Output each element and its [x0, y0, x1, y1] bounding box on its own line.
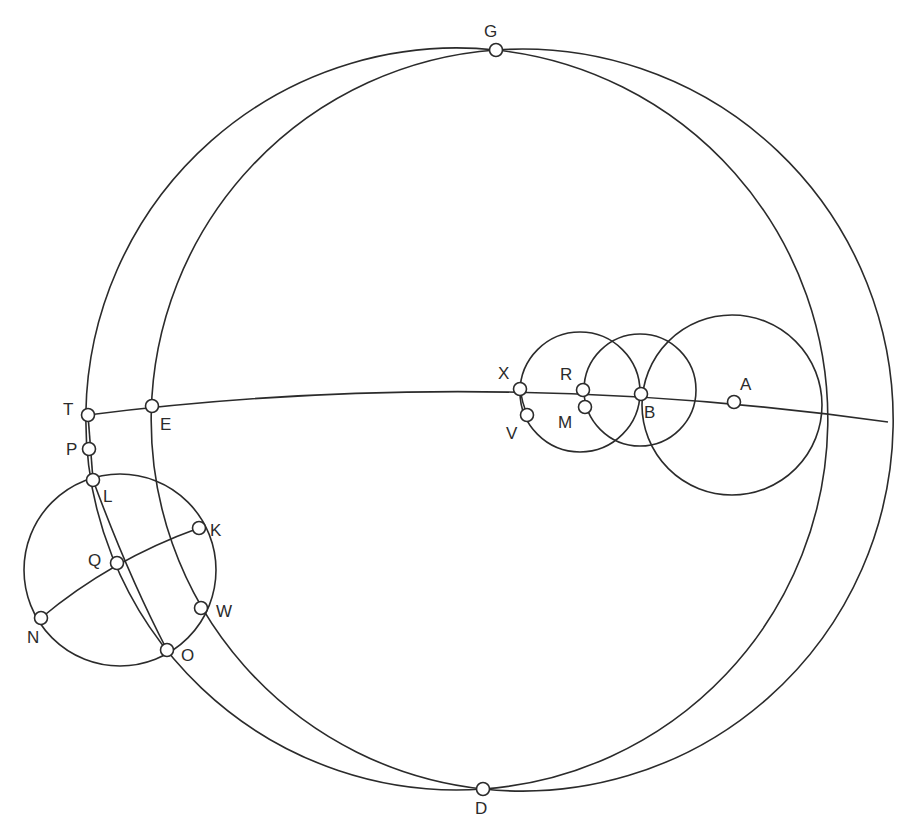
point-k-marker: [193, 522, 206, 535]
points-group: GDTEPLKQWNOXVRMBA: [27, 22, 752, 818]
curves-group: [24, 48, 893, 791]
point-q-label: Q: [88, 551, 101, 570]
point-x-label: X: [498, 364, 509, 383]
point-d-label: D: [475, 799, 487, 818]
point-r-label: R: [560, 365, 572, 384]
point-w-marker: [195, 602, 208, 615]
point-p-marker: [83, 443, 96, 456]
point-q-marker: [111, 557, 124, 570]
point-p-label: P: [66, 440, 77, 459]
point-l-label: L: [103, 487, 112, 506]
point-r-marker: [577, 384, 590, 397]
point-e-label: E: [160, 415, 171, 434]
circle-left: [24, 474, 216, 666]
point-n-label: N: [27, 628, 39, 647]
spherical-diagram: GDTEPLKQWNOXVRMBA: [0, 0, 913, 837]
point-b-label: B: [644, 403, 655, 422]
point-a-label: A: [740, 375, 752, 394]
point-w-label: W: [216, 602, 232, 621]
point-o-marker: [161, 644, 174, 657]
point-g-label: G: [484, 22, 497, 41]
point-t-label: T: [63, 400, 73, 419]
equator-arc: [88, 392, 888, 422]
point-d-marker: [477, 783, 490, 796]
point-a-marker: [728, 396, 741, 409]
point-g-marker: [490, 44, 503, 57]
point-m-label: M: [558, 413, 572, 432]
point-v-marker: [521, 409, 534, 422]
point-b-marker: [635, 388, 648, 401]
point-k-label: K: [210, 521, 222, 540]
inner-left-arc: [151, 50, 496, 789]
point-l-marker: [87, 474, 100, 487]
point-n-marker: [35, 612, 48, 625]
point-e-marker: [146, 400, 159, 413]
point-x-marker: [514, 383, 527, 396]
inner-right-arc: [483, 50, 828, 789]
point-m-marker: [579, 401, 592, 414]
point-v-label: V: [506, 424, 518, 443]
outer-left-arc: [86, 48, 496, 790]
point-t-marker: [82, 409, 95, 422]
point-o-label: O: [181, 646, 194, 665]
